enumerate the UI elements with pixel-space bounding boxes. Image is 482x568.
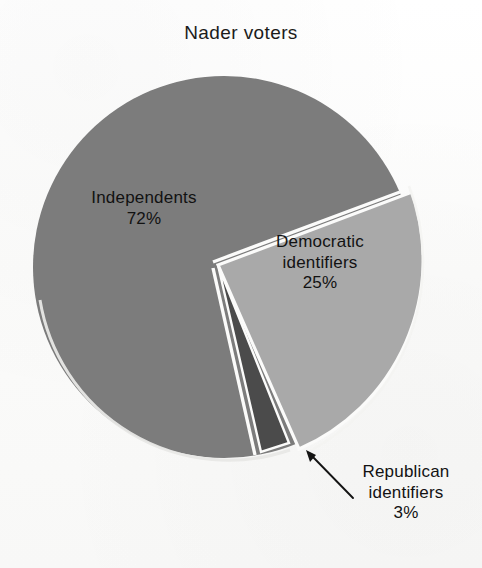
pie-chart-figure: Nader voters bbox=[0, 0, 482, 568]
slice-label-democratic-line2: identifiers bbox=[246, 253, 394, 274]
slice-label-republican-line2: identifiers bbox=[336, 483, 476, 504]
slice-label-democratic-value: 25% bbox=[246, 273, 394, 294]
slice-label-independents-value: 72% bbox=[60, 209, 228, 230]
slice-label-republican-line1: Republican bbox=[362, 462, 449, 481]
slice-label-independents-name: Independents bbox=[91, 188, 196, 207]
slice-label-republican: Republican identifiers 3% bbox=[336, 462, 476, 524]
slice-label-republican-value: 3% bbox=[336, 503, 476, 524]
slice-label-independents: Independents 72% bbox=[60, 188, 228, 229]
slice-label-democratic: Democratic identifiers 25% bbox=[246, 232, 394, 294]
slice-label-democratic-line1: Democratic bbox=[276, 232, 364, 251]
